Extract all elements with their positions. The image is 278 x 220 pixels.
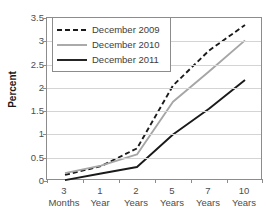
legend-item: December 2011 — [57, 52, 165, 67]
x-axis-tick-mark — [83, 179, 84, 183]
legend-swatch-icon — [57, 25, 87, 35]
y-axis-tick-label: 0 — [22, 175, 44, 186]
x-tick-number: 10 — [221, 185, 267, 197]
y-axis-tick-label: 2 — [22, 81, 44, 92]
legend-swatch-icon — [57, 55, 87, 65]
legend-item: December 2010 — [57, 37, 165, 52]
line-chart: Percent 00.511.522.533.5 December 2009De… — [0, 0, 278, 220]
y-axis-tick-mark — [43, 134, 47, 135]
x-axis-tick-mark — [155, 179, 156, 183]
gridline — [47, 111, 261, 112]
y-axis-tick-mark — [43, 65, 47, 66]
y-axis-tick-mark — [43, 111, 47, 112]
y-axis-tick-label: 1.5 — [22, 105, 44, 116]
legend-label: December 2009 — [92, 24, 160, 35]
legend-swatch-icon — [57, 40, 87, 50]
series-line — [65, 80, 245, 180]
chart-legend: December 2009December 2010December 2011 — [52, 17, 171, 72]
legend-label: December 2010 — [92, 39, 160, 50]
x-axis-tick-mark — [47, 179, 48, 183]
x-axis-tick-label: 10Years — [221, 185, 267, 209]
x-axis-tick-mark — [119, 179, 120, 183]
x-axis-tick-labels: 3Months1Year2Years5Years7Years10Years — [46, 185, 262, 217]
y-axis-tick-label: 2.5 — [22, 58, 44, 69]
x-tick-unit: Years — [221, 197, 267, 209]
gridline — [47, 88, 261, 89]
x-axis-tick-mark — [191, 179, 192, 183]
y-axis-tick-mark — [43, 41, 47, 42]
gridline — [47, 134, 261, 135]
gridline — [47, 158, 261, 159]
y-axis-tick-mark — [43, 88, 47, 89]
y-axis-tick-mark — [43, 18, 47, 19]
y-axis-tick-label: 3 — [22, 35, 44, 46]
y-axis-title: Percent — [7, 60, 18, 120]
y-axis-tick-label: 1 — [22, 128, 44, 139]
x-axis-tick-mark — [227, 179, 228, 183]
y-axis-tick-label: 3.5 — [22, 12, 44, 23]
y-axis-tick-labels: 00.511.522.533.5 — [22, 17, 44, 180]
legend-label: December 2011 — [92, 54, 159, 65]
y-axis-tick-label: 0.5 — [22, 151, 44, 162]
legend-item: December 2009 — [57, 22, 165, 37]
y-axis-tick-mark — [43, 158, 47, 159]
x-axis-tick-mark — [262, 179, 263, 183]
